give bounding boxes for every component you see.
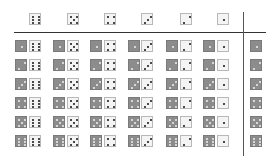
pip-icon [76,22,78,24]
pip-icon [24,125,26,127]
pip-icon [212,106,214,108]
pip-icon [189,81,191,83]
column-die-5 [67,97,79,109]
pip-icon [24,138,26,140]
pip-icon [131,68,133,70]
pip-icon [113,81,115,83]
pip-icon [96,46,98,48]
column-die-5 [67,78,79,90]
pip-icon [256,122,258,124]
column-die-5 [67,116,79,128]
pip-icon [18,106,20,108]
pip-icon [99,144,101,146]
pip-icon [32,87,34,89]
pip-icon [73,122,75,124]
pip-icon [38,22,40,24]
header-die-5 [67,13,79,25]
pip-icon [24,119,26,121]
pip-icon [253,141,255,143]
pip-icon [93,87,95,89]
pip-icon [73,84,75,86]
pip-icon [175,141,177,143]
row-die-3 [15,78,27,90]
pip-icon [18,68,20,70]
pip-icon [223,103,225,105]
pip-icon [32,100,34,102]
pip-icon [56,138,58,140]
pip-icon [76,100,78,102]
pip-icon [38,16,40,18]
pip-icon [206,119,208,121]
pip-icon [206,68,208,70]
pip-icon [131,119,133,121]
row-die-4 [90,97,102,109]
pip-icon [59,122,61,124]
pip-icon [253,119,255,121]
pip-icon [223,122,225,124]
pip-icon [137,119,139,121]
pip-icon [24,106,26,108]
pip-icon [99,62,101,64]
pip-icon [38,106,40,108]
pip-icon [253,106,255,108]
pip-icon [147,19,149,21]
pip-icon [93,144,95,146]
pip-icon [70,106,72,108]
pip-icon [175,125,177,127]
right-die-3 [250,78,262,90]
pip-icon [38,144,40,146]
pip-icon [62,62,64,64]
row-die-5 [166,116,178,128]
right-die-6 [250,135,262,147]
pip-icon [259,125,261,127]
column-die-1 [217,135,229,147]
row-die-5 [15,116,27,128]
pip-icon [38,119,40,121]
pip-icon [137,141,139,143]
pip-icon [32,19,34,21]
pip-icon [189,119,191,121]
pip-icon [113,119,115,121]
pip-icon [56,106,58,108]
pip-icon [73,65,75,67]
column-divider [243,12,244,156]
pip-icon [32,68,34,70]
pip-icon [93,141,95,143]
pip-icon [183,106,185,108]
pip-icon [137,81,139,83]
pip-icon [32,122,34,124]
pip-icon [175,144,177,146]
pip-icon [38,81,40,83]
row-die-6 [53,135,65,147]
pip-icon [131,141,133,143]
pip-icon [93,106,95,108]
pip-icon [147,141,149,143]
row-die-4 [166,97,178,109]
column-die-1 [217,116,229,128]
pip-icon [183,144,185,146]
pip-icon [32,144,34,146]
row-die-1 [166,40,178,52]
column-die-1 [217,40,229,52]
pip-icon [169,144,171,146]
pip-icon [253,100,255,102]
pip-icon [107,100,109,102]
pip-icon [56,100,58,102]
pip-icon [76,144,78,146]
column-die-2 [180,78,192,90]
pip-icon [172,84,174,86]
pip-icon [134,122,136,124]
pip-icon [18,138,20,140]
pip-icon [206,100,208,102]
pip-icon [253,87,255,89]
pip-icon [32,81,34,83]
pip-icon [259,138,261,140]
pip-icon [24,100,26,102]
pip-icon [56,144,58,146]
pip-icon [38,125,40,127]
pip-icon [70,81,72,83]
pip-icon [62,144,64,146]
pip-icon [21,46,23,48]
pip-icon [113,144,115,146]
pip-icon [113,62,115,64]
